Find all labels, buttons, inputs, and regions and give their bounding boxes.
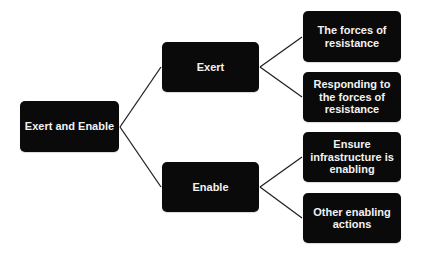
branch-node-enable: Enable	[162, 162, 259, 212]
branch-node-exert-label: Exert	[197, 61, 225, 74]
root-node-label: Exert and Enable	[25, 120, 114, 133]
connector-enable-other	[260, 187, 302, 218]
leaf-node-other-enabling-actions: Other enabling actions	[303, 193, 401, 243]
connector-exert-responding	[260, 67, 302, 97]
leaf-node-label: The forces of resistance	[317, 24, 387, 49]
leaf-node-label: Ensure infrastructure is enabling	[309, 138, 395, 176]
connector-exert-forces	[260, 37, 302, 67]
leaf-node-ensure-infrastructure: Ensure infrastructure is enabling	[303, 132, 401, 182]
branch-node-exert: Exert	[162, 42, 259, 92]
connector-root-exert	[120, 67, 161, 127]
leaf-node-label: Responding to the forces of resistance	[305, 78, 399, 116]
connector-enable-infrastructure	[260, 157, 302, 187]
root-node: Exert and Enable	[20, 101, 119, 152]
leaf-node-responding-to-forces: Responding to the forces of resistance	[303, 72, 401, 122]
branch-node-enable-label: Enable	[192, 181, 228, 194]
connector-root-enable	[120, 127, 161, 187]
leaf-node-forces-of-resistance: The forces of resistance	[303, 11, 401, 62]
leaf-node-label: Other enabling actions	[313, 206, 391, 231]
